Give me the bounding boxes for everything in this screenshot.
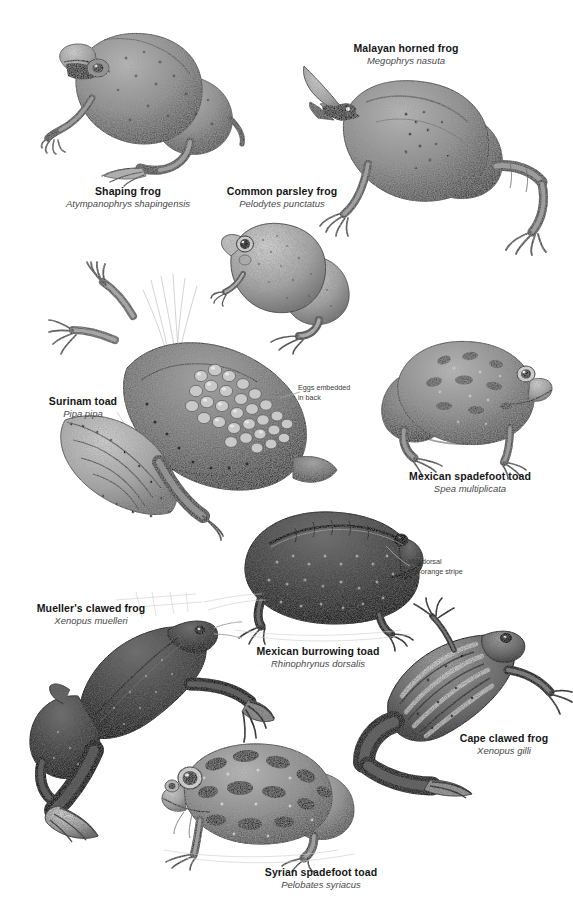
label-surinam-toad: Surinam toad Pipa pipa [13, 395, 153, 420]
species-plate: Shaping frog Atympanophrys shapingensis … [0, 0, 573, 910]
scientific-name-malayan-horned-frog: Megophrys nasuta [326, 55, 486, 66]
label-mexican-burrowing-toad: Mexican burrowing toad Rhinophrynus dors… [228, 645, 408, 670]
common-name-common-parsley-frog: Common parsley frog [212, 185, 352, 197]
common-name-syrian-spadefoot-toad: Syrian spadefoot toad [231, 866, 411, 878]
label-mexican-spadefoot-toad: Mexican spadefoot toad Spea multiplicata [380, 470, 560, 495]
leader-line-eggs-embedded [256, 380, 302, 410]
label-malayan-horned-frog: Malayan horned frog Megophrys nasuta [326, 42, 486, 67]
label-muellers-clawed-frog: Mueller's clawed frog Xenopus muelleri [12, 602, 170, 627]
scientific-name-common-parsley-frog: Pelodytes punctatus [212, 198, 352, 209]
common-name-malayan-horned-frog: Malayan horned frog [326, 42, 486, 54]
label-cape-clawed-frog: Cape clawed frog Xenopus gilli [434, 732, 573, 757]
illustration-cape-clawed-frog [358, 610, 572, 798]
annotation-eggs-embedded: Eggs embedded in back [298, 383, 382, 402]
scientific-name-muellers-clawed-frog: Xenopus muelleri [12, 615, 170, 626]
scientific-name-mexican-burrowing-toad: Rhinophrynus dorsalis [228, 658, 408, 669]
label-common-parsley-frog: Common parsley frog Pelodytes punctatus [212, 185, 352, 210]
common-name-muellers-clawed-frog: Mueller's clawed frog [12, 602, 170, 614]
leader-line-mid-dorsal-stripe [378, 540, 414, 574]
illustration-mexican-spadefoot-toad [374, 330, 556, 468]
illustration-shaping-frog [40, 18, 255, 186]
scientific-name-mexican-spadefoot-toad: Spea multiplicata [380, 483, 560, 494]
scientific-name-cape-clawed-frog: Xenopus gilli [434, 745, 573, 756]
common-name-cape-clawed-frog: Cape clawed frog [434, 732, 573, 744]
common-name-mexican-spadefoot-toad: Mexican spadefoot toad [380, 470, 560, 482]
label-syrian-spadefoot-toad: Syrian spadefoot toad Pelobates syriacus [231, 866, 411, 891]
common-name-surinam-toad: Surinam toad [13, 395, 153, 407]
illustration-syrian-spadefoot-toad [158, 734, 376, 862]
annotation-mid-dorsal-stripe: Mid-dorsal red-orange stripe [408, 557, 504, 576]
scientific-name-syrian-spadefoot-toad: Pelobates syriacus [231, 879, 411, 890]
common-name-mexican-burrowing-toad: Mexican burrowing toad [228, 645, 408, 657]
scientific-name-surinam-toad: Pipa pipa [13, 408, 153, 419]
